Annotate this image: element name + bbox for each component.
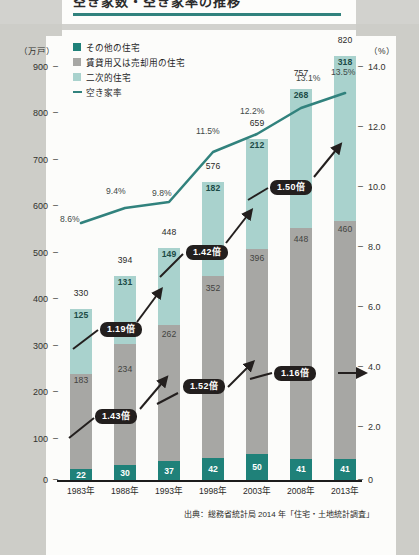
vacancy-rate-label-1988: 9.4%: [106, 186, 126, 196]
chart-source-note: 出典：総務省統計局 2014 年「住宅・土地統計調査」: [0, 508, 396, 519]
x-axis-label-2013: 2013年: [321, 484, 369, 496]
vacancy-rate-label-2003: 12.2%: [240, 106, 264, 116]
callout-1-42x[interactable]: 1.42倍: [186, 245, 228, 260]
x-axis-label-1988: 1988年: [101, 484, 149, 496]
vacancy-rate-label-1993: 9.8%: [152, 188, 172, 198]
vacancy-rate-label-1983: 8.6%: [60, 214, 80, 224]
x-axis-label-2003: 2003年: [233, 484, 281, 496]
callout-1-52x[interactable]: 1.52倍: [183, 379, 225, 394]
callout-1-43x[interactable]: 1.43倍: [95, 409, 137, 424]
x-axis-label-1998: 1998年: [189, 484, 237, 496]
callout-1-50x[interactable]: 1.50倍: [270, 180, 312, 195]
x-axis-label-1983: 1983年: [57, 484, 105, 496]
vacancy-rate-label-1998: 11.5%: [196, 126, 220, 136]
x-axis-line: [57, 480, 362, 482]
vacancy-rate-label-2008: 13.1%: [296, 73, 320, 83]
vacancy-rate-line: [0, 0, 419, 555]
callout-1-19x[interactable]: 1.19倍: [100, 322, 142, 337]
chart-plot-area: （万戸） （%） 900 800 700 600 500 400 300 200…: [0, 0, 419, 555]
x-axis-label-1993: 1993年: [145, 484, 193, 496]
vacancy-rate-label-2013: 13.5%: [331, 67, 355, 77]
callout-1-16x[interactable]: 1.16倍: [274, 366, 316, 381]
x-axis-label-2008: 2008年: [277, 484, 325, 496]
